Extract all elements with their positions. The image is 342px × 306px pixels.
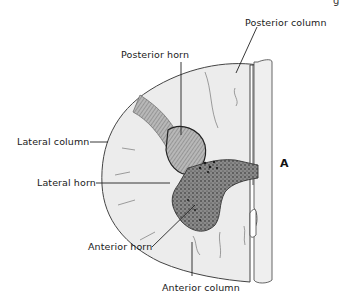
label-anterior-column: Anterior column <box>162 282 240 293</box>
anterior-fissure <box>250 209 256 237</box>
label-lateral-horn: Lateral horn <box>37 177 96 188</box>
label-posterior-column: Posterior column <box>245 17 327 28</box>
label-marker-a: A <box>280 157 289 170</box>
spinal-cord-diagram <box>0 0 342 306</box>
label-anterior-horn: Anterior horn <box>88 241 152 252</box>
label-lateral-column: Lateral column <box>17 136 89 147</box>
label-posterior-horn: Posterior horn <box>121 49 189 60</box>
corner-text-fragment: g <box>333 0 339 6</box>
